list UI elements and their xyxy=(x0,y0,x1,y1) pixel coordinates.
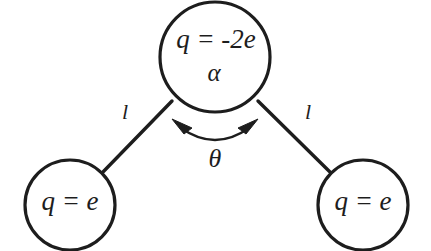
diagram-canvas: q = -2e α q = e q = e l l θ xyxy=(0,0,431,251)
bond-length-label-right: l xyxy=(305,99,311,124)
bond-length-label-left: l xyxy=(122,99,128,124)
angle-arc xyxy=(181,128,249,140)
theta-label: θ xyxy=(209,144,222,173)
right-charge-label: q = e xyxy=(334,186,391,216)
central-negative-charge-circle xyxy=(160,2,270,112)
central-charge-label: q = -2e xyxy=(176,24,256,54)
bond-line-left xyxy=(102,101,172,173)
bond-line-right xyxy=(258,101,331,173)
charge-configuration-figure: q = -2e α q = e q = e l l θ xyxy=(0,0,431,251)
alpha-label: α xyxy=(207,59,221,86)
left-charge-label: q = e xyxy=(41,186,98,216)
